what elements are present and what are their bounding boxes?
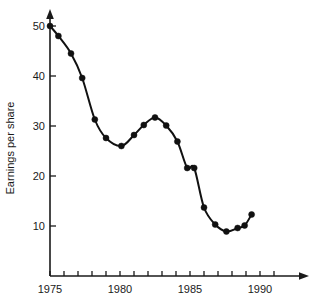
- data-point: [47, 23, 53, 29]
- chart-container: 1020304050 Earnings per share 1975198019…: [0, 0, 319, 302]
- data-point: [68, 51, 74, 57]
- y-tick-label-20: 20: [33, 170, 45, 182]
- data-point: [174, 139, 180, 145]
- y-axis-group: 1020304050 Earnings per share: [4, 9, 56, 276]
- data-point: [235, 225, 241, 231]
- y-tick-label-10: 10: [33, 220, 45, 232]
- data-point: [201, 205, 207, 211]
- x-tick-label-1980: 1980: [108, 283, 132, 295]
- data-point: [163, 123, 169, 129]
- data-point: [103, 135, 109, 141]
- y-axis-title: Earnings per share: [4, 102, 16, 195]
- data-point: [152, 115, 158, 121]
- data-point: [223, 229, 229, 235]
- x-tick-label-1985: 1985: [178, 283, 202, 295]
- data-point: [184, 165, 190, 171]
- data-point: [131, 132, 137, 138]
- data-point: [141, 122, 147, 128]
- y-tick-label-50: 50: [33, 20, 45, 32]
- series-markers-earnings-per-share: [47, 23, 255, 235]
- data-point: [79, 75, 85, 81]
- data-point: [92, 117, 98, 123]
- x-tick-label-1975: 1975: [38, 283, 62, 295]
- y-axis-tick-labels: 1020304050: [33, 20, 45, 232]
- x-axis-group: 1975198019851990: [38, 271, 309, 295]
- data-point: [191, 165, 197, 171]
- x-axis-arrow-icon: [299, 272, 309, 280]
- y-axis-arrow-icon: [46, 9, 54, 19]
- series-line-earnings-per-share: [50, 26, 252, 232]
- data-point: [55, 33, 61, 39]
- y-axis-ticks: [50, 26, 56, 226]
- data-point: [249, 212, 255, 218]
- earnings-per-share-line-chart: 1020304050 Earnings per share 1975198019…: [0, 0, 319, 302]
- data-point: [118, 143, 124, 149]
- x-axis-tick-labels: 1975198019851990: [38, 283, 272, 295]
- y-tick-label-30: 30: [33, 120, 45, 132]
- y-tick-label-40: 40: [33, 70, 45, 82]
- x-tick-label-1990: 1990: [248, 283, 272, 295]
- data-point: [212, 222, 218, 228]
- plot-area: [47, 23, 255, 235]
- data-point: [242, 223, 248, 229]
